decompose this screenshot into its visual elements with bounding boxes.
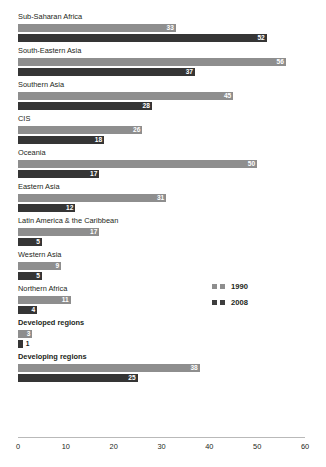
bar-group-label: Oceania	[0, 148, 326, 158]
legend-item-2008: 2008	[212, 296, 248, 308]
bar-group: Eastern Asia3112	[0, 182, 326, 212]
bar-group-label: Western Asia	[0, 250, 326, 260]
bar-1990: 50	[18, 160, 257, 168]
legend-swatch-icon	[212, 284, 217, 289]
bar-2008: 12	[18, 204, 75, 212]
chart-plot-area: Sub-Saharan Africa3352South-Eastern Asia…	[0, 12, 326, 386]
chart-legend: 19902008	[212, 280, 248, 312]
bar-row: 9	[0, 262, 326, 270]
bar-group-label: Developing regions	[0, 352, 326, 362]
bar-value-label: 33	[167, 24, 176, 32]
bar-row: 37	[0, 68, 326, 76]
bar-row: 17	[0, 228, 326, 236]
bar-group-label: Sub-Saharan Africa	[0, 12, 326, 22]
legend-swatch-icon	[220, 284, 225, 289]
x-axis-line	[18, 437, 305, 438]
bar-2008: 5	[18, 272, 42, 280]
bar-row: 38	[0, 364, 326, 372]
bar-2008: 17	[18, 170, 99, 178]
bar-value-label: 50	[248, 160, 257, 168]
bar-value-label: 17	[90, 170, 99, 178]
bar-value-label: 45	[224, 92, 233, 100]
bar-value-label: 52	[257, 34, 266, 42]
bar-group: Developing regions3825	[0, 352, 326, 382]
bar-2008: 18	[18, 136, 104, 144]
bar-value-label: 5	[36, 272, 42, 280]
bar-row: 4	[0, 306, 326, 314]
bar-row: 5	[0, 238, 326, 246]
bar-group: Sub-Saharan Africa3352	[0, 12, 326, 42]
bar-group: Developed regions31	[0, 318, 326, 348]
bar-2008: 52	[18, 34, 267, 42]
bar-row: 45	[0, 92, 326, 100]
bar-group: Oceania5017	[0, 148, 326, 178]
bar-value-label: 1	[23, 340, 30, 348]
bar-value-label: 11	[62, 296, 71, 304]
bar-2008: 25	[18, 374, 138, 382]
x-axis-tick-label: 0	[16, 442, 20, 451]
bar-value-label: 3	[27, 330, 33, 338]
bar-value-label: 5	[36, 238, 42, 246]
bar-row: 28	[0, 102, 326, 110]
bar-value-label: 12	[66, 204, 75, 212]
x-axis-tick-label: 50	[253, 442, 261, 451]
bar-row: 18	[0, 136, 326, 144]
legend-item-1990: 1990	[212, 280, 248, 292]
x-axis-tick-label: 40	[205, 442, 213, 451]
bar-1990: 9	[18, 262, 61, 270]
bar-row: 17	[0, 170, 326, 178]
bar-chart: Sub-Saharan Africa3352South-Eastern Asia…	[0, 0, 326, 467]
bar-row: 5	[0, 272, 326, 280]
bar-group: Western Asia95	[0, 250, 326, 280]
x-axis: 0102030405060	[0, 437, 326, 467]
bar-1990: 17	[18, 228, 99, 236]
bar-group-label: Northern Africa	[0, 284, 326, 294]
bar-2008: 28	[18, 102, 152, 110]
bar-row: 31	[0, 194, 326, 202]
bar-value-label: 31	[157, 194, 166, 202]
bar-row: 1	[0, 340, 326, 348]
bar-value-label: 26	[133, 126, 142, 134]
bar-value-label: 25	[128, 374, 137, 382]
bar-value-label: 56	[277, 58, 286, 66]
bar-1990: 56	[18, 58, 286, 66]
x-axis-tick-label: 20	[110, 442, 118, 451]
bar-group-label: Eastern Asia	[0, 182, 326, 192]
bar-1990: 45	[18, 92, 233, 100]
bar-1990: 3	[18, 330, 32, 338]
bar-group: Northern Africa114	[0, 284, 326, 314]
bar-row: 25	[0, 374, 326, 382]
bar-group-label: Southern Asia	[0, 80, 326, 90]
bar-1990: 38	[18, 364, 200, 372]
x-axis-tick-label: 30	[157, 442, 165, 451]
bar-row: 50	[0, 160, 326, 168]
bar-value-label: 4	[31, 306, 37, 314]
bar-row: 11	[0, 296, 326, 304]
bar-1990: 33	[18, 24, 176, 32]
x-axis-tick-label: 60	[301, 442, 309, 451]
legend-label: 1990	[231, 282, 248, 291]
bar-row: 26	[0, 126, 326, 134]
bar-group: Southern Asia4528	[0, 80, 326, 110]
bar-2008: 37	[18, 68, 195, 76]
bar-value-label: 28	[143, 102, 152, 110]
bar-2008: 1	[18, 340, 23, 348]
bar-1990: 31	[18, 194, 166, 202]
bar-row: 33	[0, 24, 326, 32]
bar-2008: 4	[18, 306, 37, 314]
bar-group: CIS2618	[0, 114, 326, 144]
bar-value-label: 17	[90, 228, 99, 236]
bar-value-label: 9	[55, 262, 61, 270]
legend-label: 2008	[231, 298, 248, 307]
bar-group: Latin America & the Caribbean175	[0, 216, 326, 246]
bar-group: South-Eastern Asia5637	[0, 46, 326, 76]
bar-value-label: 18	[95, 136, 104, 144]
bar-group-label: Developed regions	[0, 318, 326, 328]
bar-row: 52	[0, 34, 326, 42]
bar-group-label: CIS	[0, 114, 326, 124]
bar-2008: 5	[18, 238, 42, 246]
legend-swatch-icon	[212, 300, 217, 305]
bar-group-label: Latin America & the Caribbean	[0, 216, 326, 226]
bar-row: 12	[0, 204, 326, 212]
legend-swatch-icon	[220, 300, 225, 305]
